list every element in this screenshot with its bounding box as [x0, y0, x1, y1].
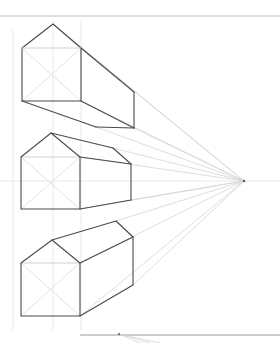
- vanishing-rays: [53, 24, 244, 316]
- perspective-drawing: [0, 0, 280, 343]
- vanishing-point: [243, 180, 245, 182]
- house-middle: [21, 133, 131, 209]
- house-top: [22, 24, 134, 128]
- bottom-rule: [80, 333, 280, 343]
- house-bottom: [21, 221, 133, 316]
